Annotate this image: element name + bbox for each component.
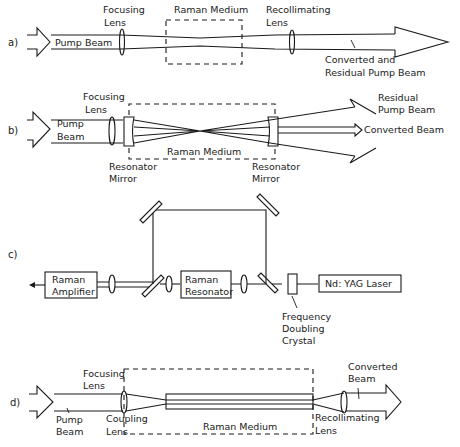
resonator-mirror-left-label-2: Mirror (109, 173, 137, 184)
raman-conversion-diagram: a) Pump Beam Focusing Lens Raman Medium … (0, 0, 460, 447)
frequency-doubling-crystal-icon (288, 274, 297, 294)
panel-a-label: a) (8, 37, 18, 48)
converted-beam-label-2: Beam (348, 373, 375, 384)
crystal-label-3: Crystal (282, 335, 315, 346)
input-arrow-icon (27, 112, 50, 147)
panel-a: a) Pump Beam Focusing Lens Raman Medium … (8, 4, 448, 78)
converted-beam-label: Converted Beam (364, 124, 444, 135)
recollimating-lens-label-2: Lens (266, 17, 288, 28)
panel-d-label: d) (10, 397, 20, 408)
residual-pump-label-1: Residual (378, 92, 418, 103)
resonator-mirror-right-label-2: Mirror (252, 173, 280, 184)
diverging-beams (313, 393, 344, 412)
focusing-lens-label-1: Focusing (103, 4, 145, 15)
resonator-mirror-right-label-1: Resonator (252, 161, 300, 172)
leader-line (358, 388, 359, 399)
output-label-2: Residual Pump Beam (325, 67, 425, 78)
laser-label: Nd: YAG Laser (325, 278, 392, 289)
mirror-icon (257, 194, 279, 216)
panel-b: b) Pump Beam Focusing Lens Raman Medium … (8, 91, 444, 184)
beam-line (97, 282, 153, 287)
leader-line (292, 296, 297, 308)
recollimating-lens-label-2: Lens (315, 425, 337, 436)
raman-fiber-icon (166, 394, 313, 409)
focusing-lens-icon (109, 117, 115, 145)
pump-beam-label-1: Pump (56, 414, 83, 425)
pump-beam-label-2: Beam (56, 426, 83, 437)
recollimating-lens-label-1: Recollimating (266, 4, 330, 15)
crystal-label-2: Doubling (282, 323, 325, 334)
recollimating-lens-label-1: Recollimating (315, 412, 379, 423)
resonator-mirror-right-icon (268, 117, 278, 146)
recollimating-lens-icon (290, 30, 295, 54)
focusing-lens-icon (120, 29, 125, 55)
resonator-mirror-left-label-1: Resonator (109, 161, 157, 172)
input-arrow-icon (29, 386, 53, 418)
coupling-lens-label-2: Lens (106, 426, 128, 437)
residual-pump-label-2: Pump Beam (378, 104, 435, 115)
raman-resonator-label-2: Resonator (185, 286, 233, 297)
raman-medium-label: Raman Medium (174, 4, 248, 15)
leader-line (351, 40, 355, 48)
converging-beams (126, 394, 166, 411)
panel-b-label: b) (8, 125, 18, 136)
input-arrow-icon (27, 28, 50, 56)
converted-beam-arrow-icon (278, 124, 362, 136)
resonator-mirror-left-icon (124, 117, 134, 146)
raman-medium-label: Raman Medium (203, 421, 277, 432)
raman-resonator-label-1: Raman (185, 274, 218, 285)
arrow-head-icon (29, 282, 35, 288)
pump-beam-label-1: Pump (57, 118, 84, 129)
fiber-core (166, 400, 313, 404)
pump-beam-lines (54, 394, 123, 411)
panel-d: d) Pump Beam Focusing Lens Coupling Lens… (10, 361, 401, 437)
pump-beam-label: Pump Beam (55, 37, 112, 48)
output-arrow-icon (395, 27, 448, 57)
lens-icon (166, 276, 172, 292)
coupling-lens-label-1: Coupling (106, 413, 148, 424)
output-label-1: Converted and (325, 54, 395, 65)
focusing-lens-label-2: Lens (85, 104, 107, 115)
pump-beam-label-2: Beam (57, 131, 84, 142)
recollimating-lens-icon (341, 391, 347, 413)
mirror-icon (140, 201, 162, 223)
converted-beam-label-1: Converted (348, 361, 397, 372)
raman-amplifier-label-1: Raman (52, 274, 85, 285)
raman-amplifier-label-2: Amplifier (52, 286, 95, 297)
raman-medium-label: Raman Medium (167, 146, 241, 157)
focusing-lens-label-1: Focusing (83, 368, 125, 379)
mirror-icon (258, 273, 278, 293)
lens-icon (109, 275, 115, 293)
raman-medium-box (166, 20, 242, 64)
focusing-lens-label-2: Lens (104, 17, 126, 28)
panel-c: c) Raman Amplifier Raman Resonator Nd: Y (8, 194, 401, 346)
lens-icon (241, 275, 247, 293)
focusing-lens-label-1: Focusing (83, 91, 125, 102)
focusing-lens-label-2: Lens (83, 380, 105, 391)
panel-c-label: c) (8, 249, 17, 260)
crystal-label-1: Frequency (282, 311, 331, 322)
